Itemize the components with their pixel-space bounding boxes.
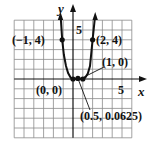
- point-neg1-4: [60, 37, 65, 42]
- label-1-0: (1, 0): [102, 55, 128, 69]
- label-half: (0.5, 0.0625): [80, 109, 142, 123]
- y-tick-5: 5: [76, 23, 82, 37]
- label-2-4: (2, 4): [96, 33, 122, 47]
- label-0-0: (0, 0): [36, 83, 62, 97]
- point-2-4: [90, 37, 95, 42]
- x-tick-5: 5: [118, 83, 124, 97]
- graph: y x 5 5 (−1, 4) (2, 4) (1, 0) (0, 0) (0.…: [0, 0, 159, 146]
- x-axis-label: x: [137, 84, 145, 99]
- label-neg1-4: (−1, 4): [12, 33, 45, 47]
- point-half: [75, 76, 80, 81]
- y-axis-label: y: [56, 1, 64, 16]
- point-0-0: [70, 76, 75, 81]
